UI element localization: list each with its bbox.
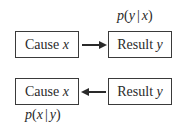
- result-word: Result: [117, 84, 153, 100]
- result-var: y: [157, 37, 163, 53]
- result-box-top: Result y: [108, 31, 172, 58]
- cause-word: Cause: [25, 37, 59, 53]
- result-word: Result: [117, 37, 153, 53]
- right-arrow-icon: [81, 40, 107, 50]
- likelihood-label: p(y|x): [117, 8, 153, 24]
- cause-box-top: Cause x: [15, 31, 79, 58]
- cause-word: Cause: [25, 84, 59, 100]
- posterior-label: p(x|y): [25, 107, 61, 123]
- left-arrow-icon: [81, 87, 107, 97]
- cause-var: x: [63, 84, 69, 100]
- cause-box-bottom: Cause x: [15, 78, 79, 105]
- result-box-bottom: Result y: [108, 78, 172, 105]
- cause-var: x: [63, 37, 69, 53]
- result-var: y: [157, 84, 163, 100]
